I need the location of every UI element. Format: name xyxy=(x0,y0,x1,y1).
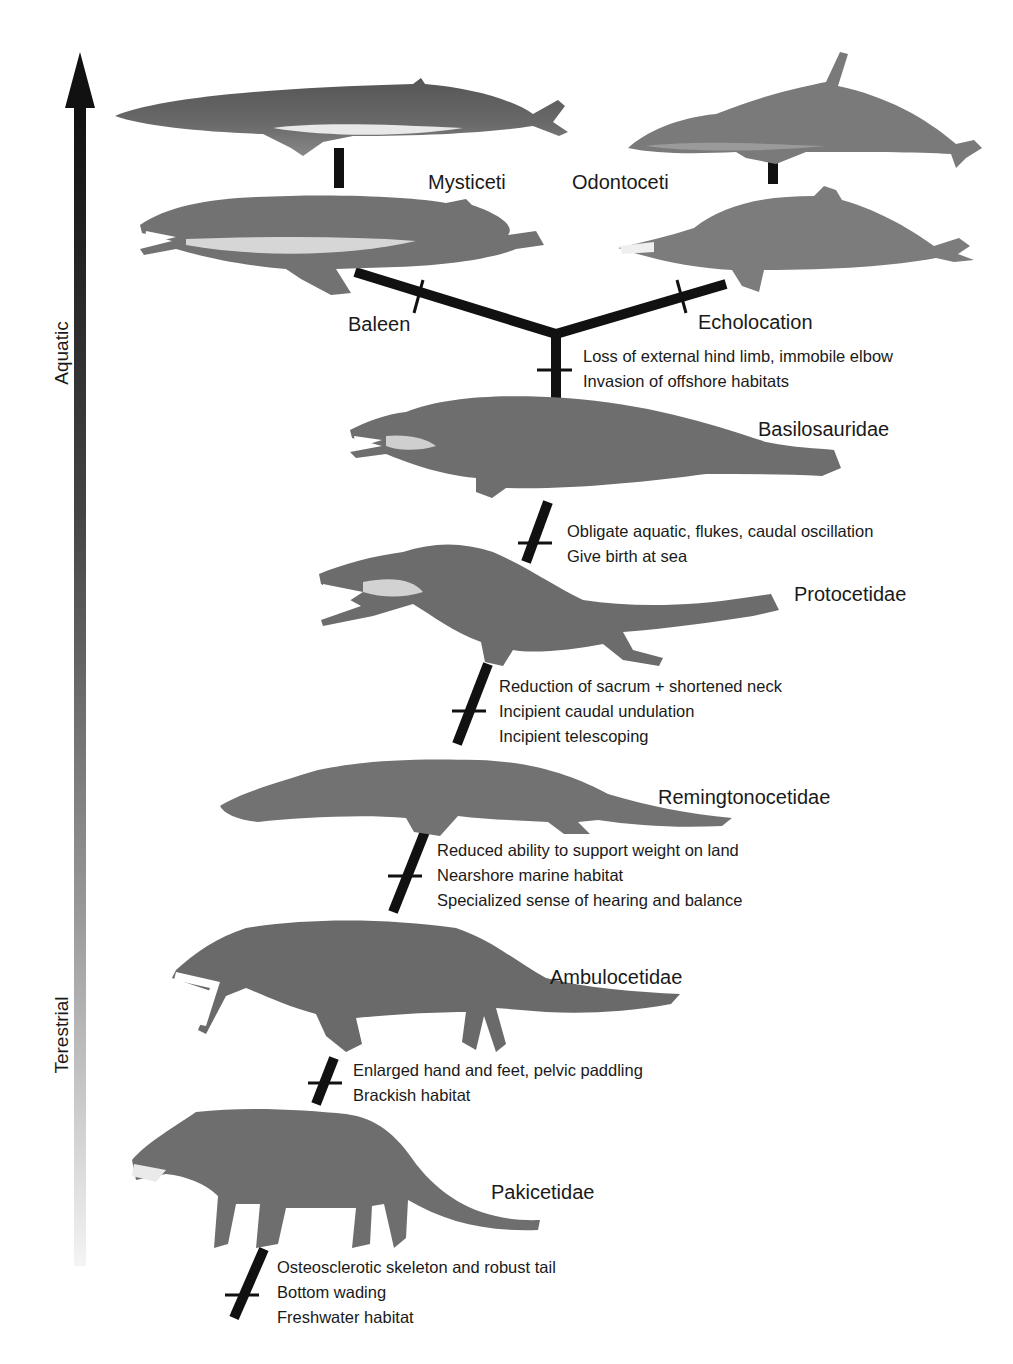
illustration-bottlenose-dolphin xyxy=(626,48,986,168)
node-traits-neoceti: Loss of external hind limb, immobile elb… xyxy=(583,344,893,394)
illustration-early-mysticete xyxy=(136,185,546,305)
node-traits-cetacea-root: Osteosclerotic skeleton and robust tail … xyxy=(277,1255,556,1330)
node-traits-ambulocetid-stem: Enlarged hand and feet, pelvic paddling … xyxy=(353,1058,643,1108)
trait-line: Freshwater habitat xyxy=(277,1305,556,1330)
trait-line: Specialized sense of hearing and balance xyxy=(437,888,742,913)
trait-line: Brackish habitat xyxy=(353,1083,643,1108)
family-label-remingtonocetidae: Remingtonocetidae xyxy=(658,786,830,809)
trait-line: Bottom wading xyxy=(277,1280,556,1305)
illustration-pakicetid xyxy=(126,1104,546,1254)
clade-label-mysticeti: Mysticeti xyxy=(428,171,506,194)
family-label-ambulocetidae: Ambulocetidae xyxy=(550,966,682,989)
trait-line: Reduced ability to support weight on lan… xyxy=(437,838,742,863)
clade-label-odontoceti: Odontoceti xyxy=(572,171,669,194)
node-traits-remingtonocetid-stem: Reduced ability to support weight on lan… xyxy=(437,838,742,913)
node-traits-pelagiceti: Obligate aquatic, flukes, caudal oscilla… xyxy=(567,519,873,569)
trait-line: Incipient telescoping xyxy=(499,724,782,749)
trait-line: Incipient caudal undulation xyxy=(499,699,782,724)
illustration-early-odontocete xyxy=(614,182,984,302)
family-label-protocetidae: Protocetidae xyxy=(794,583,906,606)
trait-line: Enlarged hand and feet, pelvic paddling xyxy=(353,1058,643,1083)
trait-line: Reduction of sacrum + shortened neck xyxy=(499,674,782,699)
node-traits-protocetid-stem: Reduction of sacrum + shortened neck Inc… xyxy=(499,674,782,749)
family-label-pakicetidae: Pakicetidae xyxy=(491,1181,594,1204)
trait-line: Nearshore marine habitat xyxy=(437,863,742,888)
trait-line: Invasion of offshore habitats xyxy=(583,369,893,394)
trait-line: Give birth at sea xyxy=(567,544,873,569)
branch-trait-echolocation: Echolocation xyxy=(698,311,813,334)
branch-trait-baleen: Baleen xyxy=(348,313,410,336)
trait-line: Obligate aquatic, flukes, caudal oscilla… xyxy=(567,519,873,544)
trait-line: Osteosclerotic skeleton and robust tail xyxy=(277,1255,556,1280)
illustration-basilosaurid xyxy=(346,392,846,502)
trait-line: Loss of external hind limb, immobile elb… xyxy=(583,344,893,369)
illustration-blue-whale xyxy=(113,70,573,170)
family-label-basilosauridae: Basilosauridae xyxy=(758,418,889,441)
